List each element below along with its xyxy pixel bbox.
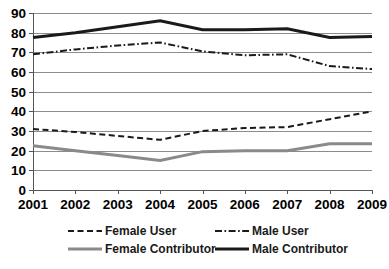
- x-tick-label: 2002: [60, 197, 90, 212]
- y-tick-label: 0: [18, 183, 26, 198]
- series-line-female-contributor: [33, 144, 372, 161]
- y-tick-label: 60: [11, 65, 26, 80]
- x-tick-label: 2006: [230, 197, 261, 212]
- legend-label: Male Contributor: [252, 242, 348, 256]
- data-series-group: [33, 21, 372, 161]
- legend-item-male-user[interactable]: Male User: [215, 224, 309, 238]
- y-tick-label: 30: [11, 124, 26, 139]
- series-line-male-user: [33, 43, 372, 70]
- x-tick-label: 2005: [187, 197, 218, 212]
- legend-item-male-contributor[interactable]: Male Contributor: [215, 242, 348, 256]
- line-chart: 0102030405060708090 20012002200320042005…: [0, 0, 389, 269]
- y-axis-tick-labels: 0102030405060708090: [11, 6, 26, 198]
- legend-item-female-contributor[interactable]: Female Contributor: [68, 242, 216, 256]
- y-tick-label: 40: [11, 104, 26, 119]
- x-tick-label: 2004: [145, 197, 176, 212]
- legend-label: Female User: [105, 224, 177, 238]
- x-tick-label: 2003: [103, 197, 134, 212]
- y-tick-label: 50: [11, 85, 26, 100]
- x-tick-label: 2001: [18, 197, 49, 212]
- y-tick-label: 10: [11, 163, 26, 178]
- chart-legend: Female UserMale UserFemale ContributorMa…: [68, 224, 348, 256]
- x-tick-label: 2007: [272, 197, 302, 212]
- y-tick-label: 20: [11, 144, 26, 159]
- x-axis-tick-labels: 200120022003200420052006200720082009: [18, 197, 387, 212]
- chart-canvas: 0102030405060708090 20012002200320042005…: [0, 0, 389, 269]
- legend-label: Male User: [252, 224, 309, 238]
- axes: [29, 13, 373, 194]
- y-tick-label: 70: [11, 45, 26, 60]
- gridlines: [33, 14, 372, 191]
- x-tick-label: 2009: [357, 197, 387, 212]
- legend-label: Female Contributor: [105, 242, 216, 256]
- series-line-female-user: [33, 111, 372, 140]
- y-tick-label: 80: [11, 26, 26, 41]
- x-tick-label: 2008: [315, 197, 346, 212]
- series-line-male-contributor: [33, 21, 372, 38]
- y-tick-label: 90: [11, 6, 26, 21]
- legend-item-female-user[interactable]: Female User: [68, 224, 177, 238]
